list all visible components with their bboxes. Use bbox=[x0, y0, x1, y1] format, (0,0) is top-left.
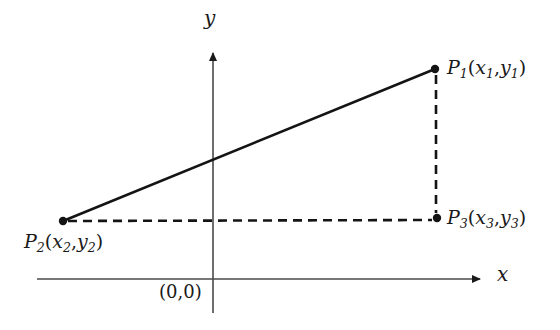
p3-coord-y: y bbox=[500, 206, 511, 228]
p1-index: 1 bbox=[460, 66, 468, 81]
p3-coord-x-index: 3 bbox=[486, 216, 494, 231]
point-label-p1: P1(x1,y1) bbox=[447, 58, 526, 80]
y-axis-label: y bbox=[204, 8, 215, 28]
p1-coord-y: y bbox=[500, 56, 511, 78]
p2-close-paren: ) bbox=[96, 230, 103, 252]
p1-coord-x: x bbox=[475, 56, 486, 78]
segment-p2-p3-dashed bbox=[68, 220, 432, 221]
p3-index: 3 bbox=[460, 216, 468, 231]
p1-name: P bbox=[447, 56, 460, 78]
p3-coord-y-index: 3 bbox=[511, 216, 519, 231]
coordinate-diagram: y x (0,0) P1(x1,y1) P2(x2,y2) P3(x3,y3) bbox=[0, 0, 560, 330]
point-marker-p1 bbox=[431, 65, 439, 73]
point-marker-p2 bbox=[59, 217, 67, 225]
p1-coord-x-index: 1 bbox=[486, 66, 494, 81]
p2-index: 2 bbox=[37, 240, 45, 255]
p1-close-paren: ) bbox=[519, 56, 526, 78]
p2-coord-y: y bbox=[77, 230, 88, 252]
diagram-canvas bbox=[0, 0, 560, 330]
p1-coord-y-index: 1 bbox=[511, 66, 519, 81]
p3-name: P bbox=[447, 206, 460, 228]
point-label-p3: P3(x3,y3) bbox=[447, 208, 526, 230]
p3-coord-x: x bbox=[475, 206, 486, 228]
p2-coord-x: x bbox=[52, 230, 63, 252]
p2-coord-x-index: 2 bbox=[63, 240, 71, 255]
x-axis-label: x bbox=[497, 264, 508, 284]
p2-name: P bbox=[24, 230, 37, 252]
origin-label: (0,0) bbox=[159, 283, 202, 301]
point-marker-p3 bbox=[433, 214, 441, 222]
point-label-p2: P2(x2,y2) bbox=[24, 232, 103, 254]
p3-close-paren: ) bbox=[519, 206, 526, 228]
p2-coord-y-index: 2 bbox=[88, 240, 96, 255]
segment-p2-p1 bbox=[63, 69, 435, 221]
